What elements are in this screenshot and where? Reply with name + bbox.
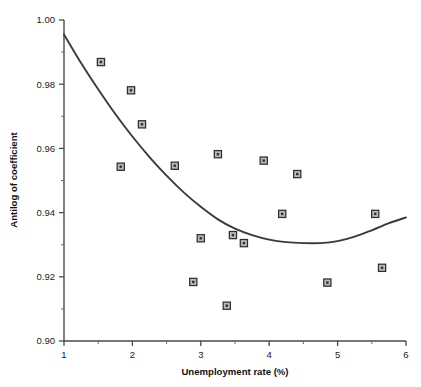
chart-figure: 0.900.920.940.960.981.00 123456 Unemploy… xyxy=(0,0,421,387)
marker-center-dot xyxy=(243,242,245,244)
marker-center-dot xyxy=(100,61,102,63)
data-point-marker xyxy=(229,231,236,238)
marker-center-dot xyxy=(226,304,228,306)
scatter-plot-svg: 0.900.920.940.960.981.00 123456 Unemploy… xyxy=(0,0,421,387)
data-point-marker xyxy=(260,157,267,164)
axes-group xyxy=(64,20,406,341)
y-tick-label: 0.98 xyxy=(37,79,56,90)
x-axis-title: Unemployment rate (%) xyxy=(181,366,288,377)
marker-center-dot xyxy=(381,267,383,269)
data-point-group xyxy=(97,58,385,309)
marker-center-dot xyxy=(374,213,376,215)
data-point-marker xyxy=(214,151,221,158)
marker-center-dot xyxy=(232,234,234,236)
y-tick-label: 0.92 xyxy=(37,271,56,282)
y-tick-label: 0.96 xyxy=(37,143,56,154)
y-tick-group xyxy=(59,20,64,341)
data-point-marker xyxy=(138,121,145,128)
marker-center-dot xyxy=(141,123,143,125)
data-point-marker xyxy=(97,58,104,65)
x-tick-label-group: 123456 xyxy=(61,349,408,360)
data-point-marker xyxy=(197,235,204,242)
x-tick-group xyxy=(64,341,406,346)
y-tick-label: 0.94 xyxy=(37,207,56,218)
x-tick-label: 3 xyxy=(198,349,203,360)
data-point-marker xyxy=(240,240,247,247)
data-point-marker xyxy=(190,278,197,285)
y-tick-label: 1.00 xyxy=(37,14,56,25)
data-point-marker xyxy=(378,264,385,271)
marker-center-dot xyxy=(326,281,328,283)
data-point-marker xyxy=(279,210,286,217)
fit-curve-path xyxy=(64,34,406,243)
x-tick-label: 2 xyxy=(130,349,135,360)
data-point-marker xyxy=(171,162,178,169)
data-point-marker xyxy=(127,87,134,94)
marker-center-dot xyxy=(281,213,283,215)
data-point-marker xyxy=(372,210,379,217)
data-point-marker xyxy=(223,302,230,309)
y-tick-label: 0.90 xyxy=(37,335,56,346)
marker-center-dot xyxy=(296,173,298,175)
marker-center-dot xyxy=(120,166,122,168)
data-point-marker xyxy=(117,163,124,170)
data-point-marker xyxy=(294,170,301,177)
x-tick-label: 4 xyxy=(267,349,272,360)
x-tick-label: 6 xyxy=(403,349,408,360)
y-axis-title: Antilog of coefficient xyxy=(8,131,19,227)
y-tick-label-group: 0.900.920.940.960.981.00 xyxy=(37,14,56,346)
data-point-marker xyxy=(324,279,331,286)
marker-center-dot xyxy=(217,153,219,155)
marker-center-dot xyxy=(192,281,194,283)
x-tick-label: 5 xyxy=(335,349,340,360)
marker-center-dot xyxy=(130,89,132,91)
marker-center-dot xyxy=(200,237,202,239)
marker-center-dot xyxy=(263,159,265,161)
marker-center-dot xyxy=(174,165,176,167)
x-tick-label: 1 xyxy=(61,349,66,360)
